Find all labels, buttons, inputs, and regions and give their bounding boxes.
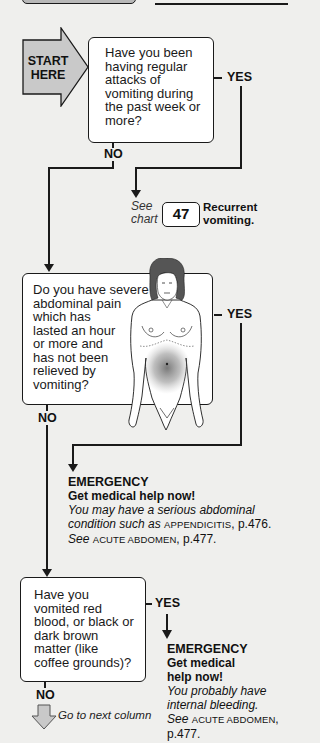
no-label-1: NO: [104, 147, 123, 161]
question-1-box: Have you been having regular attacks of …: [88, 37, 214, 143]
question-3-text: coffee grounds)?: [34, 656, 145, 670]
question-3-text: blood, or black or: [34, 615, 145, 629]
previous-divider-line: [155, 3, 288, 5]
see-text: See: [167, 712, 188, 726]
question-1-text: more?: [105, 114, 213, 128]
question-3-text: Have you: [34, 588, 145, 602]
arrow-down-icon: [44, 264, 54, 272]
no-label-3: NO: [36, 688, 55, 702]
question-1-text: the past week or: [105, 100, 213, 114]
question-3-text: dark brown: [34, 629, 145, 643]
yes-label-1: YES: [227, 70, 252, 84]
chart-text: chart: [131, 213, 158, 226]
yes-label-2: YES: [227, 307, 252, 321]
no-path-1: [48, 167, 50, 265]
emergency-title: EMERGENCY: [68, 475, 283, 489]
arrow-down-icon: [42, 569, 52, 577]
yes-path-2: [240, 323, 242, 445]
see-chart-label: See chart: [131, 200, 158, 226]
emergency-body: You may have a serious abdominal: [68, 503, 255, 517]
page-ref: , p.477.: [176, 532, 216, 546]
page-ref: , p.476.: [231, 517, 271, 531]
chart-number: 47: [173, 205, 190, 222]
chart-title-line: Recurrent: [203, 201, 257, 214]
female-body-illustration: [122, 258, 212, 433]
page-ref: p.477.: [167, 727, 287, 741]
question-1-text: Have you been: [105, 46, 213, 60]
see-text: See: [68, 532, 89, 546]
question-1-text: vomiting during: [105, 87, 213, 101]
abdominal-pain-figure-icon: [122, 258, 212, 433]
arrow-down-icon: [131, 190, 141, 198]
yes-tick-3: [146, 603, 152, 605]
arrow-down-icon: [162, 630, 172, 639]
emergency-body: You probably have: [167, 684, 287, 698]
question-1-text: having regular: [105, 60, 213, 74]
emergency-1-block: EMERGENCY Get medical help now! You may …: [68, 475, 283, 547]
emergency-body: condition such as: [68, 517, 161, 531]
appendicitis-link[interactable]: APPENDICITIS: [164, 519, 231, 530]
question-3-text: vomited red: [34, 602, 145, 616]
emergency-title: EMERGENCY: [167, 642, 287, 656]
yes-path-1: [240, 86, 242, 168]
emergency-subtitle: help now!: [167, 670, 287, 684]
yes-path-1: [135, 167, 137, 192]
emergency-subtitle: Get medical help now!: [68, 489, 283, 503]
start-label: START: [26, 54, 70, 68]
question-3-text: matter (like: [34, 642, 145, 656]
chart-47-title[interactable]: Recurrent vomiting.: [203, 201, 257, 226]
acute-abdomen-link[interactable]: ACUTE ABDOMEN: [192, 714, 276, 725]
no-path-2: [46, 425, 48, 570]
question-1-text: attacks of: [105, 73, 213, 87]
no-label-2: NO: [38, 411, 57, 425]
emergency-2-block: EMERGENCY Get medical help now! You prob…: [167, 642, 287, 741]
question-3-box: Have you vomited red blood, or black or …: [20, 577, 146, 682]
acute-abdomen-link[interactable]: ACUTE ABDOMEN: [93, 534, 177, 545]
here-label: HERE: [26, 68, 70, 82]
chart-47-link[interactable]: 47: [162, 202, 200, 227]
emergency-body: internal bleeding.: [167, 698, 287, 712]
yes-tick-1: [214, 77, 222, 79]
next-column-arrow-icon: [31, 704, 57, 730]
yes-path-1: [136, 167, 242, 169]
yes-path-2: [72, 444, 242, 446]
yes-label-3: YES: [155, 596, 180, 610]
emergency-subtitle: Get medical: [167, 656, 287, 670]
arrow-down-icon: [68, 464, 78, 472]
yes-path-2: [72, 444, 74, 466]
go-to-next-column-link[interactable]: Go to next column: [58, 709, 151, 721]
start-here-arrow: START HERE: [22, 27, 90, 107]
comma: ,: [275, 712, 278, 726]
chart-title-line: vomiting.: [203, 214, 257, 227]
yes-tick-2: [214, 314, 222, 316]
previous-box-fragment: [22, 0, 136, 4]
no-path-1: [48, 167, 114, 169]
